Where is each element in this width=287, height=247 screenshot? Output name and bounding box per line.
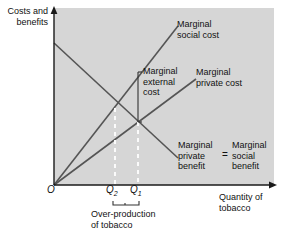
marginal-private-benefit-label: Marginal private benefit [178,140,222,172]
marginal-external-cost-label: Marginal external cost [143,66,178,98]
marginal-private-cost-label: Marginal private cost [196,67,242,88]
economics-externality-diagram: Costs and benefits Quantity of tobacco M… [0,0,287,247]
q1-tick-label: Q1 [130,185,142,200]
q2-tick-letter: Q [106,184,114,195]
origin-label: O [47,185,55,196]
q2-tick-subscript: 2 [114,190,118,197]
over-production-annotation: Over-production of tobacco [91,209,187,230]
over-production-bracket [113,201,139,205]
q1-tick-subscript: 1 [138,190,142,197]
marginal-social-cost-label: Marginal social cost [177,19,219,40]
q1-tick-letter: Q [130,184,138,195]
marginal-social-benefit-label: Marginal social benefit [232,140,278,172]
y-axis-label: Costs and benefits [2,6,48,27]
x-axis-label: Quantity of tobacco [219,192,285,213]
q2-tick-label: Q2 [106,185,118,200]
equals-sign-label: = [222,150,228,161]
